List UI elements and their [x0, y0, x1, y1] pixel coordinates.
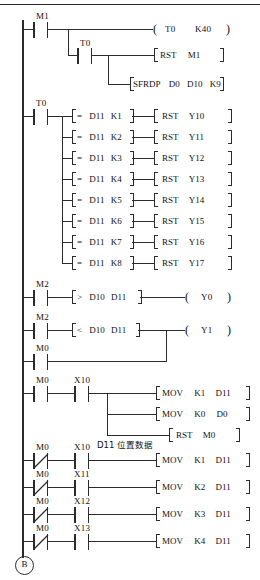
rung4p-join-vertical — [166, 330, 167, 361]
compare-op: = — [77, 256, 82, 270]
box-arg1: Y10 — [189, 109, 205, 123]
page-connector-b: B — [15, 556, 34, 575]
compare-arg-b: K7 — [111, 235, 122, 249]
contact-t0-b — [33, 109, 48, 125]
compare-op: = — [77, 214, 82, 228]
rung7-wire-main — [89, 487, 156, 488]
compare-arg-a: D10 — [89, 290, 105, 304]
compare-arg-b: D11 — [111, 323, 126, 337]
contact-m0-nc-4 — [33, 534, 48, 550]
box-sfrdp-arg1: D0 — [169, 77, 180, 91]
rung1c-wire — [108, 84, 130, 85]
box-instr: RST — [162, 214, 179, 228]
box-arg2: D11 — [216, 507, 231, 521]
rung5b-wire — [107, 414, 156, 415]
compare-op: > — [77, 290, 82, 304]
contact-t0-a — [77, 48, 92, 64]
compare-arg-b: K4 — [111, 172, 122, 186]
contact-label-x11: X11 — [74, 470, 90, 479]
rung3-wire-a — [48, 297, 72, 298]
box-arg1: K1 — [194, 386, 205, 400]
box-sfrdp-arg2: D10 — [187, 77, 203, 91]
cmp-row7-wire — [62, 242, 72, 243]
box-instr: RST — [162, 109, 179, 123]
cmp-row3-wire — [62, 158, 72, 159]
contact-label-m2-a: M2 — [36, 280, 49, 289]
box-instr: MOV — [162, 453, 183, 467]
coil-y1-label: Y1 — [201, 326, 212, 335]
cmp-row1-wire — [62, 116, 72, 117]
contact-m0-nc-1 — [33, 453, 48, 469]
compare-arg-b: K5 — [111, 193, 122, 207]
cmp-row4-wire — [62, 179, 72, 180]
rung5-wire-mid — [48, 393, 74, 394]
compare-arg-a: D11 — [89, 214, 104, 228]
cmp-row8-wire2 — [132, 263, 154, 264]
compare-arg-b: K6 — [111, 214, 122, 228]
compare-op: < — [77, 323, 82, 337]
compare-arg-b: K8 — [111, 256, 122, 270]
coil-paren-close: ) — [227, 324, 231, 336]
nc-slash-icon — [32, 533, 50, 551]
rung9-wire-mid — [48, 541, 74, 542]
cmp-row6-wire2 — [132, 221, 154, 222]
box-arg1: K1 — [194, 453, 205, 467]
box-arg2: D11 — [216, 480, 231, 494]
box-instr: MOV — [162, 507, 183, 521]
rung9-wire-main — [89, 541, 156, 542]
rung5-wire-left — [24, 393, 33, 394]
coil-paren-open: ( — [185, 324, 189, 336]
rung5c-wire — [107, 435, 169, 436]
contact-label-t0-a: T0 — [80, 39, 90, 48]
rung2-wire-left — [24, 116, 33, 117]
contact-x12 — [74, 507, 89, 523]
contact-label-m0-b: M0 — [36, 376, 49, 385]
box-arg1: K3 — [194, 507, 205, 521]
comment-d11-position-data: D11 位置数据 — [97, 440, 153, 450]
contact-x10-b — [74, 453, 89, 469]
box-instr: MOV — [162, 386, 183, 400]
box-arg2: D11 — [216, 534, 231, 548]
compare-op: = — [77, 235, 82, 249]
cmp-row1-wire2 — [132, 116, 154, 117]
box-instr: RST — [162, 130, 179, 144]
box-instr: RST — [162, 193, 179, 207]
box-arg1: Y17 — [189, 256, 205, 270]
rung4-wire-left — [24, 330, 33, 331]
rung2-wire-to-branch — [48, 116, 62, 117]
compare-arg-b: K2 — [111, 130, 122, 144]
box-sfrdp-instr: SFRDP — [133, 77, 161, 91]
rung8-wire-main — [89, 514, 156, 515]
coil-paren-open: ( — [153, 23, 157, 35]
rung5-wire-main — [89, 393, 156, 394]
contact-label-m2-b: M2 — [36, 313, 49, 322]
coil-t0-preset: K40 — [195, 25, 211, 34]
coil-t0-label: T0 — [165, 25, 175, 34]
cmp-row6-wire — [62, 221, 72, 222]
compare-arg-a: D11 — [89, 193, 104, 207]
compare-arg-a: D11 — [89, 172, 104, 186]
compare-arg-a: D10 — [89, 323, 105, 337]
compare-op: = — [77, 193, 82, 207]
contact-m1 — [33, 22, 48, 38]
coil-paren-close: ) — [227, 291, 231, 303]
compare-arg-a: D11 — [89, 130, 104, 144]
contact-x13 — [74, 534, 89, 550]
coil-y0-label: Y0 — [201, 293, 212, 302]
box-arg1: K2 — [194, 480, 205, 494]
rung8-wire-left — [24, 514, 33, 515]
contact-m2-b — [33, 323, 48, 339]
box-instr: MOV — [162, 534, 183, 548]
cmp-row4-wire2 — [132, 179, 154, 180]
rung6-wire-mid — [48, 460, 74, 461]
rung3-wire-left — [24, 297, 33, 298]
rung9-wire-left — [24, 541, 33, 542]
cmp-row2-wire — [62, 137, 72, 138]
rung4-wire-a — [48, 330, 72, 331]
compare-arg-b: K1 — [111, 109, 122, 123]
rung1b-wire-left — [68, 55, 77, 56]
box-rst-m1-instr: RST — [160, 48, 177, 62]
cmp-row8-wire — [62, 263, 72, 264]
rung4p-wire-left — [24, 361, 33, 362]
cmp-row5-wire2 — [132, 200, 154, 201]
